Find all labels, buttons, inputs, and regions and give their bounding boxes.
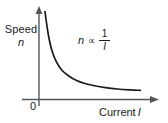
- y-axis-label: Speed n: [4, 24, 38, 48]
- x-axis-label-symbol: I: [138, 106, 141, 118]
- annotation-lhs-symbol: n: [78, 35, 84, 46]
- x-axis-arrowhead: [150, 96, 159, 103]
- speed-current-figure: Speed n 0 CurrentI n ∝ 1 I: [0, 0, 168, 123]
- y-axis-label-symbol: n: [4, 37, 38, 48]
- plot-area: [0, 0, 168, 123]
- fraction-numerator: 1: [102, 29, 108, 40]
- fraction-denominator: I: [103, 41, 106, 52]
- x-axis-label-text: Current: [99, 106, 136, 118]
- origin-tick-label: 0: [30, 101, 36, 112]
- proportionality-annotation: n ∝ 1 I: [78, 29, 110, 52]
- y-axis-arrowhead: [36, 6, 43, 14]
- y-axis-label-text: Speed: [4, 24, 38, 35]
- x-axis-label: CurrentI: [99, 107, 141, 118]
- annotation-fraction: 1 I: [99, 29, 110, 52]
- proportional-to-icon: ∝: [88, 36, 95, 46]
